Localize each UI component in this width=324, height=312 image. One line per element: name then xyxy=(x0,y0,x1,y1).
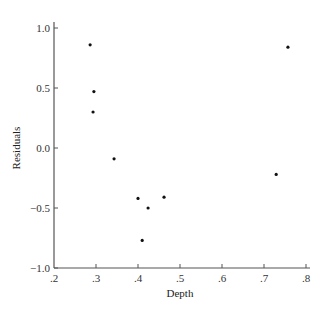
data-points xyxy=(89,43,290,242)
x-tick-label: .3 xyxy=(92,272,101,284)
data-point xyxy=(141,239,144,242)
x-tick-label: .7 xyxy=(260,272,269,284)
y-tick-label: 0.0 xyxy=(36,142,50,154)
x-tick-label: .4 xyxy=(134,272,143,284)
data-point xyxy=(89,43,92,46)
x-tick-label: .8 xyxy=(302,272,311,284)
x-tick-label: .2 xyxy=(50,272,58,284)
x-axis-ticks: .2.3.4.5.6.7.8 xyxy=(50,264,311,284)
data-point xyxy=(146,206,149,209)
x-tick-label: .6 xyxy=(218,272,227,284)
y-axis-label: Residuals xyxy=(10,127,22,170)
data-point xyxy=(136,197,139,200)
data-point xyxy=(92,90,95,93)
data-point xyxy=(112,157,115,160)
data-point xyxy=(286,46,289,49)
data-point xyxy=(162,196,165,199)
scatter-chart: 1.00.50.0−0.5−1.0 .2.3.4.5.6.7.8 Depth R… xyxy=(0,0,324,312)
data-point xyxy=(91,110,94,113)
y-tick-label: −0.5 xyxy=(30,202,50,214)
y-tick-label: −1.0 xyxy=(30,262,50,274)
y-tick-label: 1.0 xyxy=(36,22,50,34)
data-point xyxy=(275,173,278,176)
y-tick-label: 0.5 xyxy=(36,82,50,94)
x-tick-label: .5 xyxy=(176,272,185,284)
x-axis-label: Depth xyxy=(167,287,194,299)
